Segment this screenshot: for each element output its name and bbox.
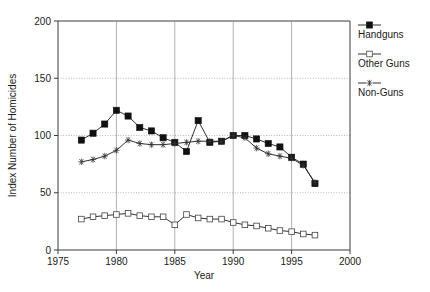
y-tick-label-200: 200	[34, 16, 51, 27]
datapoint-other-guns-1983	[149, 214, 155, 220]
datapoint-handguns-1994	[277, 144, 283, 150]
legend-label-non-guns: Non-Guns	[358, 87, 404, 98]
datapoint-other-guns-1978	[90, 214, 96, 220]
datapoint-handguns-1986	[183, 148, 189, 154]
datapoint-other-guns-1988	[207, 216, 213, 222]
datapoint-handguns-1983	[148, 128, 154, 134]
datapoint-other-guns-1987	[195, 215, 201, 221]
legend-label-handguns: Handguns	[358, 29, 404, 40]
datapoint-handguns-1978	[90, 130, 96, 136]
caption-fragment	[0, 286, 430, 292]
datapoint-non-guns-1982	[137, 140, 143, 146]
x-tick-label-1980: 1980	[105, 256, 128, 267]
datapoint-non-guns-1979	[102, 153, 108, 159]
datapoint-handguns-1982	[137, 124, 143, 130]
y-tick-label-150: 150	[34, 73, 51, 84]
datapoint-handguns-1993	[265, 140, 271, 146]
datapoint-handguns-1992	[253, 136, 259, 142]
datapoint-handguns-1977	[78, 137, 84, 143]
datapoint-other-guns-1990	[230, 220, 236, 226]
datapoint-non-guns-1984	[160, 141, 166, 147]
datapoint-other-guns-1985	[172, 222, 178, 228]
x-tick-label-1985: 1985	[164, 256, 187, 267]
datapoint-other-guns-1992	[254, 223, 260, 229]
legend-label-other-guns: Other Guns	[358, 58, 410, 69]
datapoint-handguns-1980	[113, 107, 119, 113]
y-tick-label-0: 0	[45, 245, 51, 256]
x-tick-label-1975: 1975	[47, 256, 70, 267]
legend-marker-handguns	[366, 22, 372, 28]
datapoint-non-guns-1978	[90, 156, 96, 162]
datapoint-other-guns-1996	[300, 231, 306, 237]
datapoint-other-guns-1979	[102, 213, 108, 219]
x-axis-title: Year	[194, 270, 215, 281]
datapoint-non-guns-1993	[265, 151, 271, 157]
datapoint-non-guns-1994	[277, 153, 283, 159]
datapoint-other-guns-1993	[265, 225, 271, 231]
datapoint-other-guns-1989	[219, 216, 225, 222]
y-axis-title: Index Number of Homicides	[7, 74, 18, 197]
datapoint-other-guns-1994	[277, 228, 283, 234]
datapoint-other-guns-1995	[289, 229, 295, 235]
datapoint-non-guns-1987	[195, 138, 201, 144]
datapoint-non-guns-1977	[78, 159, 84, 165]
datapoint-other-guns-1997	[312, 232, 318, 238]
x-tick-label-2000: 2000	[339, 256, 362, 267]
y-tick-label-100: 100	[34, 130, 51, 141]
homicide-index-line-chart: 050100150200197519801985199019952000Year…	[0, 0, 430, 292]
chart-canvas: 050100150200197519801985199019952000Year…	[0, 0, 430, 292]
datapoint-non-guns-1983	[148, 141, 154, 147]
datapoint-other-guns-1984	[160, 214, 166, 220]
x-tick-label-1995: 1995	[280, 256, 303, 267]
y-tick-label-50: 50	[40, 187, 52, 198]
datapoint-handguns-1987	[195, 118, 201, 124]
datapoint-other-guns-1977	[79, 216, 85, 222]
datapoint-handguns-1979	[102, 121, 108, 127]
datapoint-other-guns-1981	[125, 211, 131, 217]
legend-marker-other-guns	[367, 51, 373, 57]
datapoint-handguns-1984	[160, 135, 166, 141]
datapoint-other-guns-1982	[137, 213, 143, 219]
datapoint-handguns-1981	[125, 113, 131, 119]
x-tick-label-1990: 1990	[222, 256, 245, 267]
legend-marker-non-guns	[366, 80, 372, 86]
datapoint-other-guns-1991	[242, 222, 248, 228]
datapoint-other-guns-1986	[184, 212, 190, 218]
datapoint-other-guns-1980	[114, 212, 120, 218]
